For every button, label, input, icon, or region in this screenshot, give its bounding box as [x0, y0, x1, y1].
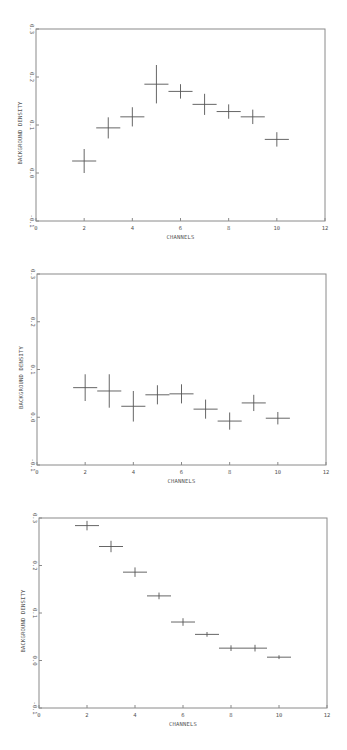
y-tick-label: -0.1 — [30, 458, 36, 471]
data-point — [73, 374, 97, 401]
y-tick-label: 0.3 — [29, 24, 35, 34]
y-tick-label: 0.3 — [32, 513, 38, 523]
x-tick-label: 8 — [228, 469, 231, 475]
data-point — [243, 645, 267, 652]
data-point — [171, 618, 195, 626]
data-point — [242, 395, 266, 411]
charts-figure: 024681012-0.10.00.10.20.3CHANNELSBACKGRO… — [0, 0, 347, 750]
x-tick-label: 6 — [179, 225, 182, 231]
y-axis-label: BACKGROUND DENSITY — [20, 589, 26, 653]
data-point — [195, 632, 219, 637]
data-point — [144, 65, 168, 103]
y-tick-label: 0.0 — [32, 656, 38, 666]
data-point — [267, 655, 291, 659]
data-point — [96, 117, 120, 138]
data-point — [123, 567, 147, 577]
y-tick-label: -0.1 — [32, 701, 38, 714]
y-axis-label: BACKGROUND DENSITY — [18, 345, 24, 409]
chart-panel-2: 024681012-0.10.00.10.20.3CHANNELSBACKGRO… — [18, 269, 329, 484]
data-point — [72, 149, 96, 173]
y-tick-label: 0.2 — [29, 72, 35, 82]
x-tick-label: 4 — [132, 469, 136, 475]
data-point — [218, 412, 242, 429]
data-point — [121, 391, 145, 422]
y-tick-label: 0.0 — [30, 412, 36, 422]
x-tick-label: 10 — [275, 469, 282, 475]
plot-frame — [37, 274, 326, 465]
y-tick-label: 0.3 — [30, 269, 36, 279]
y-axis-label: BACKGROUND DENSITY — [17, 101, 23, 165]
x-tick-label: 8 — [229, 712, 232, 718]
y-tick-label: 0.1 — [32, 608, 38, 618]
charts-svg: 024681012-0.10.00.10.20.3CHANNELSBACKGRO… — [0, 0, 347, 750]
x-tick-label: 2 — [83, 225, 86, 231]
x-tick-label: 4 — [133, 712, 137, 718]
data-point — [75, 521, 99, 531]
plot-frame — [39, 518, 327, 708]
x-tick-label: 10 — [276, 712, 283, 718]
y-tick-label: -0.1 — [29, 214, 35, 227]
y-tick-label: 0.1 — [30, 365, 36, 375]
y-tick-label: 0.0 — [29, 168, 35, 178]
x-tick-label: 10 — [274, 225, 281, 231]
x-axis-label: CHANNELS — [169, 721, 197, 727]
x-tick-label: 4 — [131, 225, 135, 231]
data-point — [168, 84, 192, 98]
y-tick-label: 0.1 — [29, 120, 35, 130]
x-tick-label: 12 — [323, 469, 330, 475]
x-axis-label: CHANNELS — [167, 478, 195, 484]
data-point — [266, 412, 290, 424]
data-point — [193, 94, 217, 115]
data-point — [147, 593, 171, 600]
chart-panel-1: 024681012-0.10.00.10.20.3CHANNELSBACKGRO… — [17, 24, 328, 240]
x-tick-label: 12 — [322, 225, 329, 231]
data-point — [145, 385, 169, 404]
data-point — [217, 104, 241, 118]
data-point — [194, 400, 218, 419]
x-tick-label: 6 — [180, 469, 183, 475]
x-tick-label: 2 — [85, 712, 88, 718]
y-tick-label: 0.2 — [32, 561, 38, 571]
y-tick-label: 0.2 — [30, 317, 36, 327]
x-tick-label: 12 — [324, 712, 331, 718]
data-point — [169, 384, 193, 403]
data-point — [99, 541, 123, 552]
chart-panel-3: 024681012-0.10.00.10.20.3CHANNELSBACKGRO… — [20, 513, 330, 727]
data-point — [219, 645, 243, 651]
x-tick-label: 8 — [227, 225, 230, 231]
data-point — [265, 132, 289, 146]
x-axis-label: CHANNELS — [166, 234, 194, 240]
data-point — [97, 374, 121, 407]
x-tick-label: 6 — [181, 712, 184, 718]
plot-frame — [36, 29, 325, 221]
x-tick-label: 2 — [84, 469, 87, 475]
data-point — [241, 110, 265, 124]
data-point — [120, 107, 144, 126]
